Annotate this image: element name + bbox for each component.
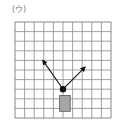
block-rectangle (60, 95, 71, 111)
grid-diagram (0, 0, 122, 120)
pivot-dot (60, 86, 66, 92)
arrows (43, 60, 85, 89)
right-arrow (63, 67, 85, 89)
left-arrow (43, 60, 63, 89)
